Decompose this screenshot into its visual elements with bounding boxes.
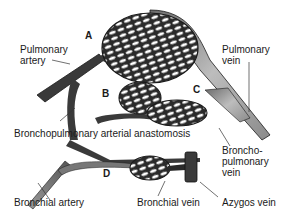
bronchial-vein (168, 164, 186, 171)
capillary-bed-d (130, 156, 170, 180)
label-bronchial-artery: Bronchial artery (14, 197, 84, 208)
letter-d: D (103, 168, 110, 179)
label-pulmonary-artery: Pulmonary artery (20, 44, 68, 66)
letter-a: A (85, 30, 92, 41)
label-pulmonary-vein: Pulmonary vein (222, 44, 270, 66)
label-bronchopulmonary-anastomosis: Bronchopulmonary arterial anastomosis (14, 128, 190, 139)
label-bronchial-vein: Bronchial vein (137, 197, 200, 208)
letter-b: B (102, 88, 109, 99)
capillary-bed-c (147, 100, 207, 126)
letter-c: C (193, 84, 200, 95)
label-bronchopulmonary-vein: Broncho- pulmonary vein (222, 145, 269, 178)
circulation-diagram (0, 0, 290, 219)
azygos-vein (185, 152, 197, 182)
label-azygos-vein: Azygos vein (222, 197, 276, 208)
capillary-bed-a (102, 13, 198, 83)
